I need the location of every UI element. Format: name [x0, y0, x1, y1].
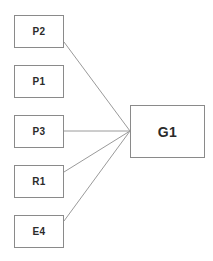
node-r1-label: R1: [32, 177, 45, 187]
node-p3-label: P3: [33, 127, 46, 137]
node-p2[interactable]: P2: [14, 15, 64, 48]
node-g1-label: G1: [158, 125, 177, 139]
node-p2-label: P2: [33, 27, 46, 37]
node-e4-label: E4: [33, 227, 46, 237]
node-e4[interactable]: E4: [14, 215, 64, 248]
node-r1[interactable]: R1: [14, 165, 64, 198]
path-diagram-canvas: P2 P1 P3 R1 E4 G1: [0, 0, 213, 261]
node-g1[interactable]: G1: [130, 105, 205, 158]
node-p1-label: P1: [33, 77, 46, 87]
edge-r1-g1: [64, 131, 130, 172]
edge-e4-g1: [64, 131, 130, 221]
edge-p2-g1: [64, 42, 130, 131]
node-p1[interactable]: P1: [14, 65, 64, 98]
node-p3[interactable]: P3: [14, 115, 64, 148]
